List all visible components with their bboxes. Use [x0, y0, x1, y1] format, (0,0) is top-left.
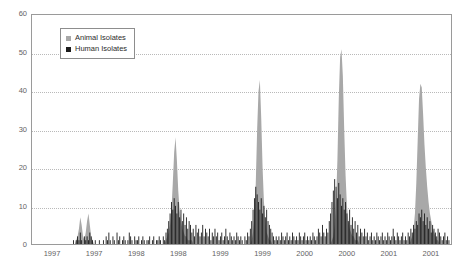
x-axis-tick-label: 1997 [71, 250, 117, 258]
bar [186, 217, 187, 244]
bar [168, 221, 169, 244]
bar [149, 236, 150, 244]
bar [118, 240, 119, 244]
bar [148, 240, 149, 244]
bar [312, 233, 313, 244]
bar [147, 240, 148, 244]
area-path [32, 49, 451, 244]
bar [220, 236, 221, 244]
bar [393, 229, 394, 244]
bar [130, 236, 131, 244]
bar [421, 210, 422, 244]
bar [394, 236, 395, 244]
bar [304, 233, 305, 244]
bar [370, 236, 371, 244]
bar [209, 229, 210, 244]
bar [436, 236, 437, 244]
bar [201, 233, 202, 244]
bar [371, 233, 372, 244]
bar [352, 217, 353, 244]
bar [179, 217, 180, 244]
bar [281, 233, 282, 244]
bar [299, 233, 300, 244]
bar [235, 240, 236, 244]
bar [212, 233, 213, 244]
bar [232, 240, 233, 244]
bar [357, 225, 358, 244]
y-axis-tick-label: 30 [6, 126, 27, 134]
bar [164, 240, 165, 244]
bar [189, 221, 190, 244]
bar [137, 240, 138, 244]
bar [95, 240, 96, 244]
bar [329, 221, 330, 244]
bar [391, 236, 392, 244]
bar [103, 240, 104, 244]
bar [84, 236, 85, 244]
bar [420, 217, 421, 244]
bar [240, 236, 241, 244]
bar [253, 210, 254, 244]
bar [123, 236, 124, 244]
bar [387, 233, 388, 244]
bar [182, 221, 183, 244]
bar [208, 236, 209, 244]
bar [293, 236, 294, 244]
bar [278, 236, 279, 244]
bar [332, 202, 333, 244]
bar [91, 236, 92, 244]
bar [366, 236, 367, 244]
bar [310, 236, 311, 244]
bar [300, 236, 301, 244]
y-axis-tick-label: 10 [6, 203, 27, 211]
bar [242, 240, 243, 244]
bar [273, 236, 274, 244]
bar [261, 198, 262, 244]
bar [431, 233, 432, 244]
bar [375, 240, 376, 244]
bar [80, 233, 81, 244]
bar [338, 183, 339, 244]
bar [142, 236, 143, 244]
y-axis-tick-label: 20 [6, 164, 27, 172]
legend-label-animal-isolates: Animal Isolates [75, 34, 126, 42]
bar [213, 236, 214, 244]
bar [298, 240, 299, 244]
bar [432, 225, 433, 244]
bar [134, 236, 135, 244]
bar [348, 221, 349, 244]
bar [160, 240, 161, 244]
bar [334, 179, 335, 244]
bar [398, 236, 399, 244]
x-axis-tick-label: 2000 [324, 250, 370, 258]
bar [87, 236, 88, 244]
bar [379, 240, 380, 244]
bar [442, 240, 443, 244]
series-animal-isolates [32, 49, 451, 244]
bar [163, 236, 164, 244]
bar [344, 210, 345, 244]
bar [153, 236, 154, 244]
bar [337, 198, 338, 244]
x-axis-tick-label: 1999 [197, 250, 243, 258]
bar [185, 225, 186, 244]
bar [200, 236, 201, 244]
bar [227, 236, 228, 244]
bar [423, 221, 424, 244]
bar [236, 233, 237, 244]
bar [410, 229, 411, 244]
bar [99, 240, 100, 244]
x-axis-tick-label: 2001 [408, 250, 454, 258]
bar [216, 236, 217, 244]
bar [284, 240, 285, 244]
bar [181, 210, 182, 244]
bar [291, 240, 292, 244]
bar [152, 240, 153, 244]
bar [106, 236, 107, 244]
bar [389, 236, 390, 244]
bar [174, 198, 175, 244]
bar [107, 240, 108, 244]
bar [340, 194, 341, 244]
bar [138, 236, 139, 244]
bar [246, 240, 247, 244]
